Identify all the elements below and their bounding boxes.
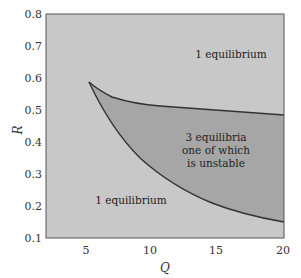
x-tick: 20 [276,244,290,257]
y-axis-label: R [11,125,25,135]
y-axis-ticks: 0.8 0.7 0.6 0.5 0.4 0.3 0.2 0.1 [25,8,43,245]
middle-region-label-line1: 3 equilibria [185,131,246,143]
x-tick: 10 [143,244,157,257]
bottom-region-label: 1 equilibrium [95,194,167,206]
y-tick: 0.2 [25,200,43,213]
x-tick: 5 [83,244,90,257]
y-tick: 0.3 [25,168,43,181]
bifurcation-chart: 0.8 0.7 0.6 0.5 0.4 0.3 0.2 0.1 5 10 15 … [0,0,301,278]
y-tick: 0.8 [25,8,43,21]
middle-region-label-line2: one of which [182,144,250,156]
x-axis-label: Q [160,261,170,275]
x-axis-ticks: 5 10 15 20 [83,244,291,257]
middle-region-label-line3: is unstable [187,157,245,169]
top-region-label: 1 equilibrium [195,48,267,60]
y-tick: 0.1 [25,232,43,245]
y-tick: 0.5 [25,104,43,117]
y-tick: 0.6 [25,72,43,85]
y-tick: 0.7 [25,40,43,53]
x-tick: 15 [209,244,223,257]
y-tick: 0.4 [25,136,43,149]
